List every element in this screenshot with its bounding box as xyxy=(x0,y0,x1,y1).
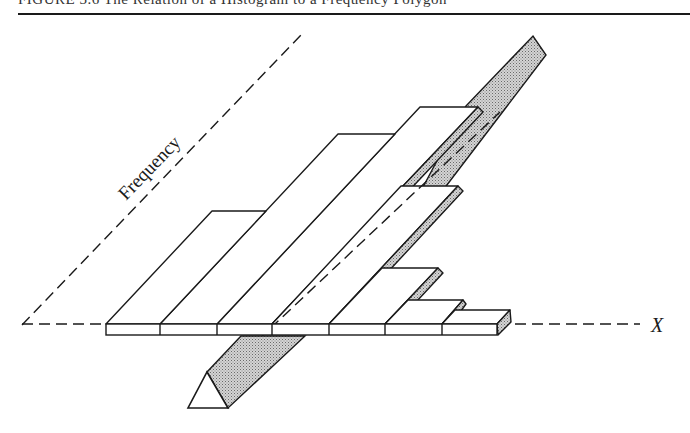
frequency-axis-label: Frequency xyxy=(114,131,185,204)
histogram-diagram: Frequency X xyxy=(0,0,690,433)
x-axis-label: X xyxy=(650,314,664,336)
base-slab xyxy=(106,324,497,335)
